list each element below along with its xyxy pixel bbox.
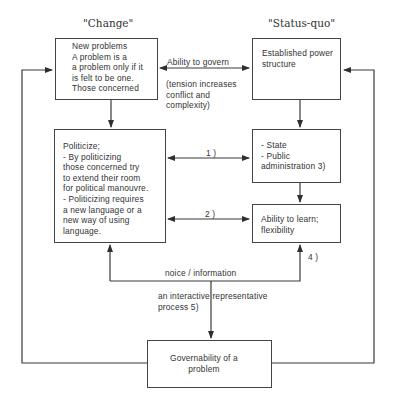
text-governability: Governability of a problem [170, 353, 238, 374]
text-politicize: Politicize; - By politicizing those conc… [63, 141, 148, 236]
label-link-4: 4 ) [308, 252, 318, 263]
label-interactive-process: an interactive representative process 5) [158, 291, 268, 312]
heading-status-quo: "Status-quo" [268, 17, 335, 29]
label-link-1: 1 ) [206, 148, 216, 159]
label-ability-to-govern: Ability to govern [167, 57, 229, 68]
heading-change: "Change" [83, 17, 133, 29]
text-new-problems: New problems A problem is a a problem on… [72, 41, 143, 94]
label-noice-information: noice / information [165, 268, 236, 279]
label-tension: (tension increases conflict and complexi… [166, 79, 237, 111]
text-established-power: Established power structure [262, 48, 333, 69]
label-link-2: 2 ) [205, 209, 215, 220]
text-state: - State - Public administration 3) [261, 140, 325, 172]
text-ability-to-learn: Ability to learn; flexibility [261, 214, 318, 235]
